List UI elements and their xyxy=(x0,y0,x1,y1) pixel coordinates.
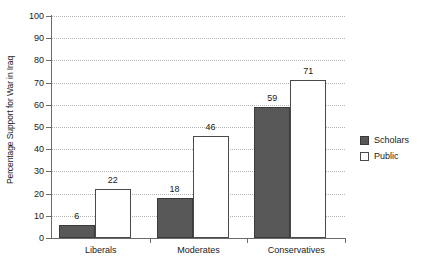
bar-liberals-scholars xyxy=(59,225,95,238)
y-axis-tick xyxy=(46,105,52,106)
gridline xyxy=(52,38,345,39)
chart-legend: ScholarsPublic xyxy=(360,133,426,165)
y-axis-tick xyxy=(46,216,52,217)
bar-value-label: 46 xyxy=(205,122,215,132)
y-axis-tick xyxy=(46,194,52,195)
y-axis-tick xyxy=(46,83,52,84)
legend-swatch-icon xyxy=(360,152,369,161)
y-axis-tick-label: 70 xyxy=(2,78,44,88)
legend-label: Scholars xyxy=(374,135,409,145)
y-axis-tick xyxy=(46,149,52,150)
bar-value-label: 71 xyxy=(303,66,313,76)
bar-moderates-public xyxy=(193,136,229,238)
legend-swatch-icon xyxy=(360,136,369,145)
y-axis-tick xyxy=(46,60,52,61)
legend-entry-scholars[interactable]: Scholars xyxy=(360,133,426,147)
y-axis-tick-label: 30 xyxy=(2,166,44,176)
x-axis-category-label: Conservatives xyxy=(268,245,325,255)
x-axis-tick xyxy=(150,238,151,243)
x-axis-line xyxy=(51,238,346,239)
bar-value-label: 6 xyxy=(74,211,79,221)
bar-moderates-scholars xyxy=(157,198,193,238)
x-axis-category-label: Moderates xyxy=(177,245,220,255)
bar-liberals-public xyxy=(95,189,131,238)
x-axis-tick xyxy=(247,238,248,243)
y-axis-tick xyxy=(46,171,52,172)
y-axis-tick-label: 60 xyxy=(2,100,44,110)
bar-value-label: 59 xyxy=(267,93,277,103)
bar-conservatives-public xyxy=(290,80,326,238)
x-axis-tick xyxy=(345,238,346,243)
y-axis-tick xyxy=(46,38,52,39)
bar-value-label: 18 xyxy=(169,184,179,194)
legend-label: Public xyxy=(374,151,399,161)
x-axis-category-label: Liberals xyxy=(85,245,117,255)
legend-entry-public[interactable]: Public xyxy=(360,149,426,163)
y-axis-tick-label: 40 xyxy=(2,144,44,154)
y-axis-tick-label: 100 xyxy=(2,11,44,21)
y-axis-tick xyxy=(46,127,52,128)
gridline xyxy=(52,16,345,17)
y-axis-tick-labels: 0102030405060708090100 xyxy=(0,0,44,269)
y-axis-tick-label: 10 xyxy=(2,211,44,221)
plot-area: 62218465971 xyxy=(52,16,345,238)
y-axis-tick-label: 90 xyxy=(2,33,44,43)
y-axis-tick-label: 50 xyxy=(2,122,44,132)
y-axis-tick-label: 20 xyxy=(2,189,44,199)
y-axis-tick xyxy=(46,238,52,239)
bar-conservatives-scholars xyxy=(254,107,290,238)
bar-value-label: 22 xyxy=(108,175,118,185)
bar-chart: Percentage Support for War in Iraq 01020… xyxy=(0,0,429,269)
y-axis-tick xyxy=(46,16,52,17)
gridline xyxy=(52,60,345,61)
y-axis-tick-label: 0 xyxy=(2,233,44,243)
y-axis-tick-label: 80 xyxy=(2,55,44,65)
